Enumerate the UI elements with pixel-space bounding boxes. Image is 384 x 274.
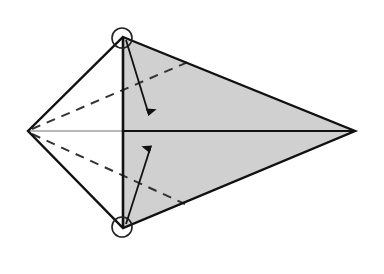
origami-diagram <box>0 0 384 274</box>
shaded-right-face <box>123 37 355 228</box>
